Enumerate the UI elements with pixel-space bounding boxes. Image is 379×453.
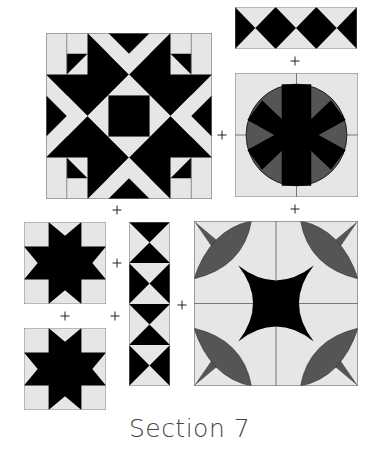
plus-icon — [113, 206, 122, 215]
plus-icon — [291, 205, 300, 214]
plus-icon — [113, 259, 122, 268]
plus-icon — [111, 312, 120, 321]
eight-point-star-bottom — [24, 328, 106, 410]
plus-icon — [178, 301, 187, 310]
eight-point-star-top — [24, 222, 106, 304]
curved-cross-block — [194, 221, 358, 386]
star-square-block — [46, 33, 212, 199]
plus-icon — [61, 312, 70, 321]
section-title: Section 7 — [0, 414, 379, 443]
plus-icon — [291, 57, 300, 66]
circle-block — [235, 73, 358, 197]
diamond-strip-horizontal — [235, 7, 357, 49]
hourglass-strip-vertical — [129, 222, 170, 386]
plus-icon — [218, 131, 227, 140]
